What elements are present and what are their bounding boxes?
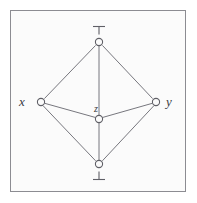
node-bottom[interactable]: [95, 160, 102, 167]
node-label-x: x: [19, 95, 25, 108]
edge-top-y: [102, 45, 152, 98]
node-y[interactable]: [152, 98, 159, 105]
edge-x-bottom: [43, 106, 95, 161]
figure-root: x y z: [0, 0, 197, 203]
bottom-symbol-icon: [93, 172, 105, 180]
node-top[interactable]: [95, 38, 102, 45]
top-symbol-icon: [93, 27, 105, 35]
edge-top-x: [44, 45, 95, 98]
node-label-z: z: [94, 104, 98, 114]
edge-y-bottom: [102, 106, 153, 161]
node-x[interactable]: [37, 98, 44, 105]
node-label-y: y: [166, 95, 172, 108]
edge-group: [43, 45, 154, 160]
node-z[interactable]: [95, 115, 102, 122]
